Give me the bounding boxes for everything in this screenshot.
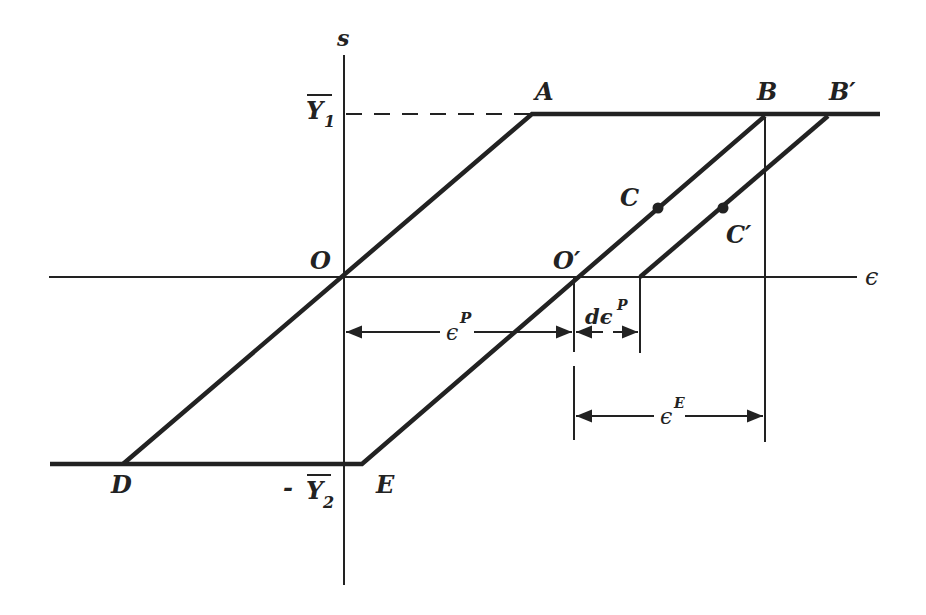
point-b-prime-label: B′ [828, 77, 856, 106]
upper-yield-sub: 1 [324, 112, 335, 131]
vertical-axis-label: s [336, 25, 349, 51]
plastic-strain-sup: P [459, 309, 472, 327]
point-a-label: A [533, 77, 554, 106]
lower-yield-prefix: - [283, 473, 293, 502]
point-d-label: D [110, 470, 132, 499]
point-b-label: B [756, 77, 777, 106]
horizontal-axis-label: ϵ [865, 263, 878, 291]
plastic-increment-label: dϵ [585, 304, 613, 329]
point-e-label: E [375, 470, 395, 499]
point-c-dot [653, 203, 664, 214]
stress-strain-diagram: s ϵ Y 1 - Y 2 O O′ A B B′ C C′ D E ϵ P d… [0, 0, 926, 615]
unloading-path [50, 116, 765, 464]
plastic-strain-label: ϵ [446, 320, 458, 345]
point-o-prime-label: O′ [553, 246, 581, 275]
plastic-increment-sup: P [616, 297, 628, 313]
point-c-label: C [620, 183, 639, 212]
elastic-strain-label: ϵ [660, 404, 672, 429]
point-c-prime-label: C′ [726, 220, 752, 249]
point-o-label: O [310, 246, 331, 275]
lower-yield-sub: 2 [322, 493, 334, 512]
point-c-prime-dot [718, 203, 729, 214]
elastic-strain-sup: E [673, 395, 685, 411]
upper-yield-label: Y [306, 96, 326, 125]
